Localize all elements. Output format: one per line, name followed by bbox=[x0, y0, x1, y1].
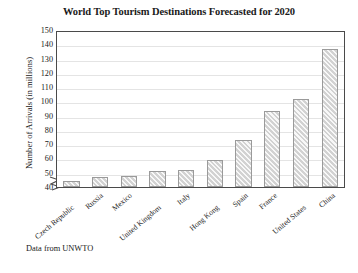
y-tick-label: 150 bbox=[41, 27, 53, 35]
bar[interactable] bbox=[235, 140, 251, 187]
source-note: Data from UNWTO bbox=[26, 244, 93, 253]
x-tick-label: Czech Republic bbox=[33, 203, 76, 241]
bar[interactable] bbox=[322, 49, 338, 187]
bar-slot bbox=[229, 32, 258, 187]
bar-slot bbox=[114, 32, 143, 187]
bar[interactable] bbox=[149, 171, 165, 187]
x-label-slot: France bbox=[258, 189, 287, 245]
y-tick-label: 120 bbox=[41, 70, 53, 78]
x-axis-tick-labels: Czech RepublicRussiaMexicoUnited Kingdom… bbox=[56, 189, 345, 245]
bar[interactable] bbox=[178, 170, 194, 187]
bar[interactable] bbox=[92, 177, 108, 187]
bar-slot bbox=[258, 32, 287, 187]
y-tick-label: 110 bbox=[41, 84, 53, 92]
x-tick-label: China bbox=[317, 191, 337, 210]
y-tick-label: 90 bbox=[45, 113, 53, 121]
bar-slot bbox=[287, 32, 316, 187]
x-tick-label: Italy bbox=[175, 191, 191, 207]
y-axis-tick-labels: 150140130120110100908070605040 bbox=[30, 31, 53, 188]
bar-slot bbox=[172, 32, 201, 187]
bar-slot bbox=[143, 32, 172, 187]
chart-title: World Top Tourism Destinations Forecaste… bbox=[0, 6, 358, 17]
y-tick-label: 60 bbox=[45, 155, 53, 163]
x-label-slot: China bbox=[316, 189, 345, 245]
bar-slot bbox=[315, 32, 344, 187]
bar-series bbox=[57, 32, 344, 187]
x-tick-label: Russia bbox=[84, 191, 105, 211]
x-label-slot: United States bbox=[287, 189, 316, 245]
bar[interactable] bbox=[293, 99, 309, 187]
bar-slot bbox=[201, 32, 230, 187]
x-tick-label: Spain bbox=[231, 191, 250, 209]
bar[interactable] bbox=[264, 111, 280, 187]
y-tick-label: 140 bbox=[41, 41, 53, 49]
bar-slot bbox=[57, 32, 86, 187]
bar[interactable] bbox=[63, 181, 79, 187]
x-label-slot: Czech Republic bbox=[56, 189, 85, 245]
bar-slot bbox=[86, 32, 115, 187]
y-tick-label: 70 bbox=[45, 141, 53, 149]
y-tick-label: 130 bbox=[41, 55, 53, 63]
plot-area bbox=[56, 31, 345, 188]
x-tick-label: France bbox=[257, 191, 279, 211]
x-label-slot: United Kingdom bbox=[143, 189, 172, 245]
y-tick-label: 80 bbox=[45, 127, 53, 135]
y-tick-label: 100 bbox=[41, 98, 53, 106]
bar[interactable] bbox=[121, 176, 137, 187]
x-tick-label: Mexico bbox=[110, 191, 134, 213]
x-label-slot: Russia bbox=[85, 189, 114, 245]
bar[interactable] bbox=[207, 160, 223, 187]
chart-container: World Top Tourism Destinations Forecaste… bbox=[0, 0, 358, 273]
x-label-slot: Spain bbox=[229, 189, 258, 245]
x-label-slot: Hong Kong bbox=[201, 189, 230, 245]
